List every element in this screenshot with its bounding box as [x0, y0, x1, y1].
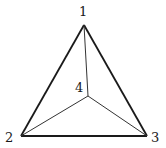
tetrahedron-diagram: [0, 0, 166, 148]
vertex-label-1: 1: [79, 5, 87, 18]
edge-4-1: [84, 25, 88, 96]
vertex-label-2: 2: [5, 131, 13, 144]
edge-3-1: [84, 25, 147, 136]
vertex-label-4: 4: [75, 81, 83, 94]
edge-4-3: [88, 96, 147, 136]
vertex-label-3: 3: [151, 131, 159, 144]
edge-4-2: [21, 96, 88, 136]
